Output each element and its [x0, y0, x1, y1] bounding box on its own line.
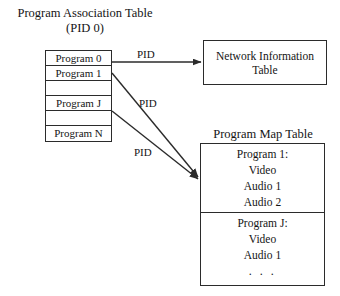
pmt-section-program-1: Program 1: Video Audio 1 Audio 2 — [201, 144, 324, 213]
pmt-section-program-j: Program J: Video Audio 1 . . . — [201, 213, 324, 285]
pmt-s1-line-2: Video — [201, 162, 324, 178]
network-information-table-box: Network Information Table — [203, 40, 327, 85]
pat-row-program-1: Program 1 — [46, 66, 111, 81]
program-association-table-title: Program Association Table (PID 0) — [0, 6, 170, 36]
pmt-s2-line-1: Program J: — [201, 215, 324, 231]
pmt-s2-line-3: Audio 1 — [201, 247, 324, 263]
pat-row-program-0: Program 0 — [46, 51, 111, 66]
nit-line-2: Table — [216, 63, 314, 77]
program-map-table-box: Program 1: Video Audio 1 Audio 2 Program… — [200, 143, 325, 286]
pid-label-to-nit: PID — [137, 48, 155, 60]
arrow-program-j-to-pmt — [112, 111, 198, 179]
pid-label-program-1-to-pmt: PID — [139, 97, 157, 109]
pid-label-program-j-to-pmt: PID — [134, 146, 152, 158]
pmt-s1-line-1: Program 1: — [201, 146, 324, 162]
pat-row-program-n: Program N — [46, 126, 111, 141]
pat-row-blank-2 — [46, 111, 111, 126]
pmt-s2-line-2: Video — [201, 231, 324, 247]
pat-row-program-j: Program J — [46, 96, 111, 111]
nit-line-1: Network Information — [216, 49, 314, 63]
network-information-table-label: Network Information Table — [216, 49, 314, 77]
pmt-s1-line-3: Audio 1 — [201, 178, 324, 194]
pmt-s2-line-4-ellipsis: . . . — [201, 263, 324, 279]
pat-title-line-1: Program Association Table — [18, 6, 153, 20]
program-map-table-title: Program Map Table — [196, 127, 330, 142]
pmt-s1-line-4: Audio 2 — [201, 194, 324, 210]
diagram-canvas: Program Association Table (PID 0) Progra… — [0, 0, 340, 296]
pat-title-line-2: (PID 0) — [0, 21, 170, 36]
arrow-program-1-to-pmt — [112, 73, 198, 177]
program-association-table: Program 0 Program 1 Program J Program N — [45, 50, 112, 142]
pat-row-blank-1 — [46, 81, 111, 96]
